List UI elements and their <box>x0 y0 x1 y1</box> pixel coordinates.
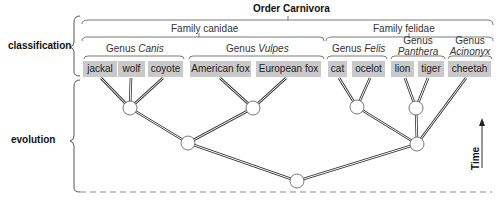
branches <box>101 78 466 181</box>
node-panthera <box>409 101 423 115</box>
classification-brace <box>70 16 80 76</box>
evolution-brace <box>70 80 80 192</box>
node-canis <box>123 101 137 115</box>
species-lion: lion <box>391 61 414 77</box>
species-jackal: jackal <box>83 61 117 77</box>
species-european-fox: European fox <box>256 61 321 77</box>
node-canidae <box>181 136 195 150</box>
genus-panthera-label: GenusPanthera <box>395 35 441 57</box>
species-coyote: coyote <box>148 61 183 77</box>
genus-vulpes-label: Genus Vulpes <box>226 43 289 54</box>
evolution-label: evolution <box>11 134 55 145</box>
genus-felis-label: Genus Felis <box>332 43 385 54</box>
species-cat: cat <box>328 61 347 77</box>
species-cheetah: cheetah <box>448 61 491 77</box>
genus-canis-label: Genus Canis <box>106 43 164 54</box>
order-label: Order Carnivora <box>253 3 330 14</box>
species-ocelot: ocelot <box>352 61 385 77</box>
node-felidae <box>410 137 424 151</box>
node-root <box>290 174 304 188</box>
family-felidae-label: Family felidae <box>373 23 435 34</box>
family-canidae-label: Family canidae <box>171 23 238 34</box>
node-vulpes <box>246 101 260 115</box>
species-tiger: tiger <box>418 61 444 77</box>
node-felis <box>350 100 364 114</box>
species-wolf: wolf <box>118 61 145 77</box>
time-arrowhead-icon <box>479 118 485 126</box>
classification-label: classification <box>8 40 71 51</box>
species-american-fox: American fox <box>190 61 251 77</box>
genus-acinonyx-label: GenusAcinonyx <box>447 35 493 57</box>
time-label: Time <box>470 147 481 170</box>
